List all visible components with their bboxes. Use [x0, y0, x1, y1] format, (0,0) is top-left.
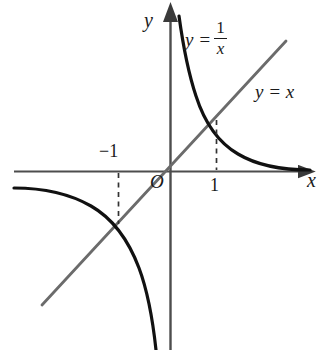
origin-label: O	[150, 172, 164, 191]
x-tick-label-one: 1	[210, 176, 219, 194]
curve-equation-label: y = 1 x	[185, 20, 227, 59]
hyperbola-branch-quadrant-3	[14, 188, 156, 350]
x-axis-label: x	[307, 170, 316, 190]
line-equation-label: y = x	[255, 82, 294, 101]
curve-equation-lhs: y =	[185, 30, 211, 49]
x-tick-label-negative-one: −1	[99, 142, 118, 160]
fraction-numerator: 1	[214, 19, 227, 37]
line-y-equals-x	[42, 41, 286, 305]
fraction-one-over-x: 1 x	[214, 19, 227, 58]
math-figure: y x O −1 1 y = x y = 1 x	[0, 0, 325, 350]
y-axis-label: y	[144, 10, 153, 30]
fraction-denominator: x	[215, 40, 227, 58]
